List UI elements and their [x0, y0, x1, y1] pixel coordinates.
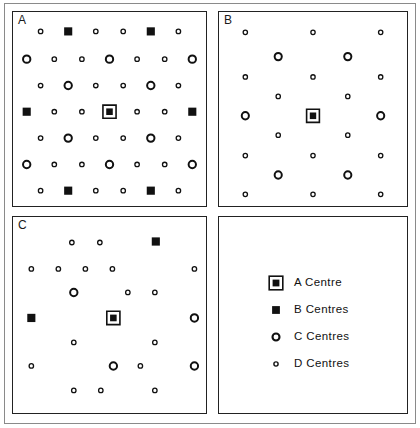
d-centre-point: [94, 188, 98, 192]
c-centre-point: [147, 82, 154, 89]
b-centre-point: [147, 27, 155, 35]
c-centre-point: [242, 112, 249, 119]
c-centre-point: [106, 161, 113, 168]
d-centre-point: [162, 109, 166, 113]
d-centre-point: [138, 364, 142, 369]
c-centre-point: [189, 55, 196, 62]
d-centre-point: [135, 109, 139, 113]
d-centre-point: [98, 240, 102, 245]
a-centre-point: [103, 105, 116, 118]
d-centre-point: [38, 29, 42, 33]
d-centre-point: [346, 94, 350, 98]
panel-c-plot: [13, 217, 206, 413]
d-centre-point: [70, 240, 74, 245]
c-centre-point: [147, 134, 154, 141]
d-centre-point: [379, 192, 383, 196]
d-centre-point: [99, 388, 103, 393]
d-centre-point: [52, 109, 56, 113]
d-centre-point: [176, 136, 180, 140]
panel-b-plot: [219, 12, 407, 206]
d-centre-point: [176, 188, 180, 192]
d-centre-point: [38, 188, 42, 192]
d-centre-point: [80, 57, 84, 61]
d-centre-point: [135, 162, 139, 166]
d-centre-point: [135, 57, 139, 61]
d-centre-point: [276, 133, 280, 137]
legend-row-d-centres: D Centres: [265, 350, 405, 377]
c-centre-point: [344, 53, 351, 60]
d-centre-point: [162, 57, 166, 61]
d-centre-point: [311, 192, 315, 196]
d-centre-point: [94, 29, 98, 33]
a-centre-point: [107, 311, 120, 324]
d-centre-point: [311, 153, 315, 157]
figure-root: A B C A Centre: [0, 0, 420, 428]
c-centre-point: [377, 112, 384, 119]
legend-row-b-centres: B Centres: [265, 296, 405, 323]
b-centre-point: [188, 108, 196, 116]
d-centre-point: [153, 388, 157, 393]
legend-row-c-centres: C Centres: [265, 323, 405, 350]
d-centre-point: [56, 267, 60, 272]
c-centre-point: [70, 289, 77, 296]
c-centre-point: [106, 55, 113, 62]
d-centre-point: [162, 162, 166, 166]
c-centre-marker: [265, 326, 287, 348]
b-centre-point: [64, 187, 72, 195]
panel-a: A: [12, 11, 207, 207]
d-centre-point: [110, 267, 114, 272]
d-centre-point: [276, 94, 280, 98]
d-centre-point: [153, 340, 157, 345]
panel-legend: A Centre B Centres C Centres: [218, 216, 408, 414]
c-centre-point: [23, 161, 30, 168]
d-centre-point: [311, 30, 315, 34]
b-centre-point: [23, 108, 31, 116]
d-centre-point: [94, 83, 98, 87]
d-centre-point: [94, 136, 98, 140]
d-centre-point: [121, 29, 125, 33]
d-centre-point: [52, 162, 56, 166]
d-centre-point: [243, 192, 247, 196]
panel-a-plot: [13, 12, 206, 206]
b-centre-marker: [265, 299, 287, 321]
legend: A Centre B Centres C Centres: [265, 269, 405, 377]
legend-row-a-centre: A Centre: [265, 269, 405, 296]
legend-label-d-centres: D Centres: [294, 357, 349, 370]
d-centre-point: [346, 133, 350, 137]
d-centre-point: [311, 75, 315, 79]
panel-b: B: [218, 11, 408, 207]
c-centre-point: [275, 171, 282, 178]
c-centre-point: [189, 161, 196, 168]
d-centre-point: [243, 153, 247, 157]
d-centre-point: [38, 83, 42, 87]
legend-label-c-centres: C Centres: [294, 330, 349, 343]
legend-label-b-centres: B Centres: [294, 303, 349, 316]
c-centre-point: [65, 82, 72, 89]
d-centre-point: [243, 75, 247, 79]
b-centre-point: [147, 187, 155, 195]
d-centre-point: [176, 29, 180, 33]
c-centre-point: [191, 314, 198, 321]
c-centre-point: [275, 53, 282, 60]
d-centre-point: [153, 290, 157, 295]
c-centre-point: [344, 171, 351, 178]
d-centre-point: [379, 153, 383, 157]
d-centre-point: [83, 267, 87, 272]
d-centre-point: [52, 57, 56, 61]
b-centre-point: [152, 237, 160, 245]
d-centre-point: [29, 364, 33, 369]
d-centre-point: [80, 109, 84, 113]
d-centre-point: [243, 30, 247, 34]
d-centre-marker: [265, 353, 287, 375]
c-centre-point: [23, 55, 30, 62]
d-centre-point: [121, 83, 125, 87]
d-centre-point: [126, 290, 130, 295]
panel-c: C: [12, 216, 207, 414]
d-centre-point: [121, 136, 125, 140]
d-centre-point: [72, 340, 76, 345]
a-centre-marker: [265, 272, 287, 294]
a-centre-point: [307, 109, 320, 122]
b-centre-point: [64, 27, 72, 35]
d-centre-point: [121, 188, 125, 192]
d-centre-point: [379, 75, 383, 79]
